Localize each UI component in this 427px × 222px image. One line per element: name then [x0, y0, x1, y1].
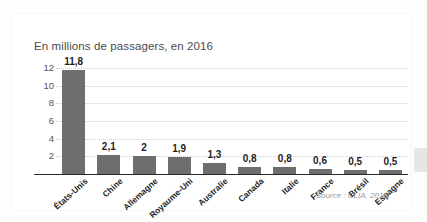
bar — [168, 157, 191, 174]
bar — [62, 70, 85, 174]
bar-value-label: 0,8 — [278, 153, 292, 164]
x-axis-category-label: Canada — [236, 176, 266, 204]
bar-value-label: 0,8 — [243, 153, 257, 164]
bar — [97, 155, 120, 174]
plot-area: 11,82,121,91,30,80,80,60,50,5 — [56, 59, 408, 174]
bar-value-label: 11,8 — [64, 56, 83, 67]
chart-title: En millions de passagers, en 2016 — [34, 40, 213, 52]
bar-value-label: 2 — [141, 142, 147, 153]
y-axis-tick-label: 8 — [49, 98, 54, 108]
chart-screenshot: En millions de passagers, en 2016 246810… — [0, 0, 427, 222]
y-axis-tick-label: 4 — [49, 134, 54, 144]
chart-card: En millions de passagers, en 2016 246810… — [12, 14, 410, 210]
y-axis-tick-labels: 24681012 — [34, 59, 54, 174]
x-axis-line — [34, 174, 408, 175]
y-axis-tick-label: 6 — [49, 116, 54, 126]
y-axis-tick-label: 2 — [49, 152, 54, 162]
bar-value-label: 0,5 — [383, 156, 397, 167]
bar-series: 11,82,121,91,30,80,80,60,50,5 — [56, 59, 408, 174]
bar — [133, 156, 156, 174]
right-edge-sliver — [414, 148, 427, 172]
y-axis-tick-label: 10 — [43, 81, 54, 91]
bar — [238, 167, 261, 174]
source-caption: Source : CLIA, 2016. — [316, 191, 390, 200]
bar-value-label: 2,1 — [102, 141, 116, 152]
x-axis-category-label: Italie — [279, 176, 300, 196]
bar-value-label: 1,3 — [207, 149, 221, 160]
y-axis-tick-label: 12 — [43, 63, 54, 73]
bar — [273, 167, 296, 174]
bar-value-label: 1,9 — [172, 143, 186, 154]
bar-value-label: 0,6 — [313, 155, 327, 166]
bar-value-label: 0,5 — [348, 156, 362, 167]
x-axis-category-label: Chine — [100, 176, 124, 199]
bar — [203, 163, 226, 175]
x-axis-category-label: Australie — [196, 176, 230, 208]
x-axis-category-label: États-Unis — [51, 176, 89, 212]
